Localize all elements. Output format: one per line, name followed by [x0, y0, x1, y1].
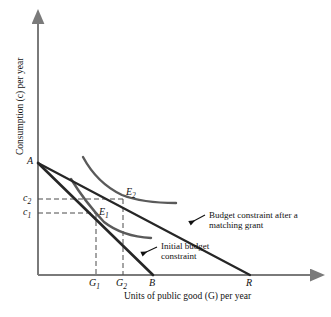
point-label-e2-subscript: 2 — [132, 191, 136, 200]
annotation-matching-grant-line2: matching grant — [209, 220, 298, 230]
leader-arrow-initial-budget — [142, 247, 157, 254]
y-axis-title: Consumption (c) per year — [15, 58, 26, 155]
budget-line-initial — [38, 163, 153, 275]
y-tick-label-c2-subscript: 2 — [27, 197, 31, 206]
point-label-a: A — [27, 155, 33, 167]
annotation-initial-budget: Initial budget constraint — [161, 241, 209, 262]
y-tick-label-c2: c2 — [23, 192, 31, 207]
point-label-e1: E1 — [99, 206, 109, 221]
point-label-e2: E2 — [126, 186, 136, 201]
economics-figure-matching-grant: Consumption (c) per year Units of public… — [0, 0, 331, 317]
x-axis-title: Units of public good (G) per year — [124, 291, 251, 302]
annotation-initial-budget-line1: Initial budget — [161, 241, 209, 251]
leader-arrow-matching-grant — [190, 215, 205, 223]
y-tick-label-c1-subscript: 1 — [27, 211, 31, 220]
x-tick-label-g1-subscript: 1 — [96, 282, 100, 291]
x-tick-label-g1: G1 — [89, 277, 100, 292]
annotation-matching-grant: Budget constraint after a matching grant — [209, 210, 298, 231]
figure-canvas — [0, 0, 331, 317]
y-tick-label-c1: c1 — [23, 206, 31, 221]
annotation-initial-budget-line2: constraint — [161, 251, 209, 261]
x-tick-label-g2: G2 — [116, 277, 127, 292]
annotation-matching-grant-line1: Budget constraint after a — [209, 210, 298, 220]
point-label-r: R — [246, 277, 252, 289]
x-tick-label-g2-subscript: 2 — [123, 282, 127, 291]
point-label-e1-subscript: 1 — [105, 211, 109, 220]
point-label-b: B — [149, 277, 155, 289]
